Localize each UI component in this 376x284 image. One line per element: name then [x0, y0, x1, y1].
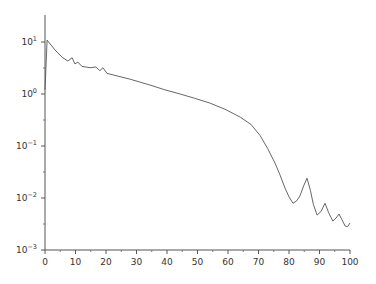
- y-tick-label: 101: [21, 35, 37, 47]
- x-tick-label: 50: [192, 257, 204, 267]
- x-tick-label: 30: [131, 257, 143, 267]
- x-tick-label: 20: [100, 257, 112, 267]
- y-tick-label: 10−3: [16, 243, 37, 255]
- y-tick-label: 100: [21, 87, 37, 99]
- axes: [45, 15, 350, 250]
- x-tick-label: 100: [341, 257, 358, 267]
- x-tick-label: 70: [253, 257, 265, 267]
- plot-area: [45, 40, 350, 227]
- x-tick-label: 80: [283, 257, 295, 267]
- y-tick-label: 10−1: [16, 139, 37, 151]
- x-axis-ticks: 0102030405060708090100: [42, 250, 359, 267]
- x-tick-label: 0: [42, 257, 48, 267]
- y-tick-label: 10−2: [16, 191, 37, 203]
- x-tick-label: 90: [314, 257, 326, 267]
- x-tick-label: 40: [161, 257, 173, 267]
- y-axis-ticks: 10110010−110−210−3: [16, 35, 45, 255]
- x-tick-label: 10: [70, 257, 82, 267]
- data-line: [45, 40, 350, 227]
- line-chart: 10110010−110−210−3 010203040506070809010…: [0, 0, 376, 284]
- x-tick-label: 60: [222, 257, 234, 267]
